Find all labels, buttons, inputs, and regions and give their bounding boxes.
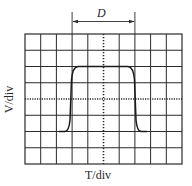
pulse-width-label: D xyxy=(97,6,106,21)
x-axis-label: T/div xyxy=(85,168,111,183)
center-axes xyxy=(25,34,182,164)
oscilloscope-diagram xyxy=(0,0,192,186)
y-axis-label: V/div xyxy=(2,86,17,113)
grid xyxy=(25,34,182,164)
